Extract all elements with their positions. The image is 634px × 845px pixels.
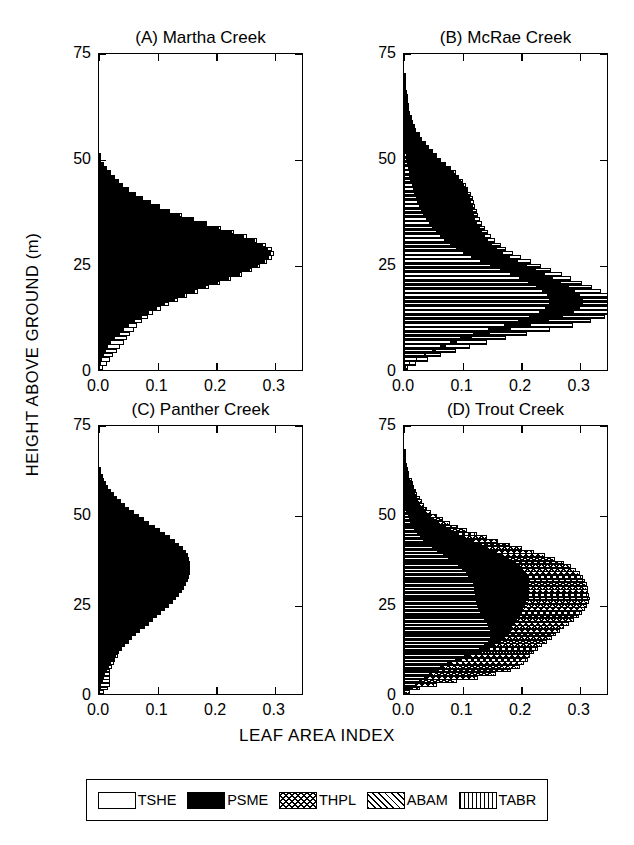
bar-row — [404, 268, 551, 273]
bar-segment-psme — [99, 579, 187, 583]
bar-segment-psme — [448, 557, 510, 561]
bar-row — [404, 285, 592, 290]
bar-segment-abam — [404, 615, 482, 619]
bar-segment-psme — [412, 525, 445, 529]
bar-segment-abam — [404, 593, 475, 597]
x-tick-mark — [216, 54, 217, 61]
bar-segment-psme — [99, 272, 240, 277]
bar-segment-tshe — [461, 179, 463, 184]
bar-row — [404, 582, 587, 586]
bar-segment-tshe — [488, 238, 495, 243]
bar-segment-tshe — [482, 230, 488, 235]
x-axis-title: LEAF AREA INDEX — [0, 726, 634, 746]
bar-segment-tshe — [178, 593, 179, 597]
bar-row — [404, 323, 573, 328]
bar-row — [99, 187, 129, 192]
y-tick-mark — [404, 160, 411, 161]
legend-swatch-abam-icon — [367, 792, 405, 809]
bar-segment-tshe — [583, 302, 608, 307]
bar-row — [99, 517, 144, 521]
bar-row — [99, 336, 127, 341]
bar-row — [404, 344, 470, 349]
bar-row — [404, 175, 459, 180]
bar-segment-psme — [404, 485, 413, 489]
bar-segment-tshe — [150, 200, 151, 205]
bar-segment-tshe — [486, 535, 487, 539]
bar-segment-tshe — [492, 243, 500, 248]
bar-segment-tshe — [410, 361, 416, 366]
bar-segment-abam — [404, 353, 424, 358]
y-tick-label: 50 — [73, 506, 91, 524]
bar-segment-tshe — [118, 651, 119, 655]
bar-segment-psme — [99, 474, 103, 478]
y-tick-mark — [600, 54, 607, 55]
bar-row — [404, 546, 522, 550]
bar-row — [99, 543, 179, 547]
bar-segment-tshe — [511, 327, 551, 332]
bar-row — [404, 661, 524, 665]
bar-segment-psme — [475, 593, 528, 597]
bar-segment-tshe — [172, 600, 173, 604]
bar-row — [404, 633, 556, 637]
bar-segment-tshe — [540, 643, 542, 647]
bar-segment-thpl — [481, 651, 533, 655]
bar-segment-tshe — [103, 679, 110, 683]
bar-segment-tshe — [271, 251, 275, 256]
bar-segment-abam — [404, 676, 424, 680]
bar-segment-abam — [404, 200, 417, 205]
bar-segment-tshe — [485, 234, 491, 239]
bar-row — [404, 217, 480, 222]
bar-segment-psme — [99, 471, 101, 475]
bar-row — [404, 510, 431, 514]
bar-segment-psme — [99, 665, 109, 669]
bar-segment-psme — [99, 281, 218, 286]
legend: TSHEPSMETHPLABAMTABR — [86, 779, 548, 821]
x-tick-mark — [216, 687, 217, 694]
bar-segment-psme — [472, 651, 481, 655]
bar-row — [99, 629, 140, 633]
bar-segment-psme — [464, 654, 472, 658]
bar-row — [99, 226, 221, 231]
bar-segment-abam — [404, 327, 488, 332]
bar-row — [404, 209, 477, 214]
bar-row — [404, 243, 501, 248]
bar-segment-psme — [409, 170, 455, 175]
bar-segment-tshe — [521, 546, 523, 550]
bar-segment-psme — [99, 496, 117, 500]
x-tick-mark — [521, 54, 522, 61]
bar-segment-psme — [99, 175, 114, 180]
bar-segment-tshe — [472, 336, 506, 341]
x-tick-label: 0.2 — [509, 377, 531, 395]
bar-segment-psme — [409, 175, 458, 180]
bar-row — [404, 166, 451, 171]
bar-segment-tshe — [144, 625, 145, 629]
bar-segment-psme — [404, 456, 406, 460]
bar-segment-psme — [99, 243, 263, 248]
bar-segment-tshe — [532, 550, 534, 554]
bar-row — [99, 200, 151, 205]
y-tick-mark — [600, 606, 607, 607]
bar-segment-tshe — [522, 661, 524, 665]
bar-segment-abam — [404, 546, 432, 550]
y-tick-mark — [600, 160, 607, 161]
y-axis-title: HEIGHT ABOVE GROUND (m) — [23, 165, 42, 545]
panel-panther-creek: (C) Panther Creek0.00.10.20.30255075 — [98, 425, 303, 695]
bar-segment-thpl — [411, 687, 418, 691]
bar-segment-psme — [99, 234, 244, 239]
bar-segment-psme — [99, 550, 186, 554]
bar-segment-tshe — [111, 340, 124, 345]
bar-row — [99, 651, 119, 655]
bar-segment-psme — [99, 564, 190, 568]
bar-segment-tshe — [106, 349, 117, 354]
bar-segment-abam — [404, 268, 500, 273]
bar-segment-psme — [99, 298, 175, 303]
bar-row — [404, 481, 413, 485]
bar-segment-psme — [99, 327, 124, 332]
x-tick-mark — [580, 363, 581, 370]
bar-segment-tshe — [426, 507, 427, 511]
panel-title-b: (B) McRae Creek — [403, 28, 608, 48]
bar-row — [404, 306, 608, 311]
bar-segment-thpl — [416, 683, 434, 687]
bar-segment-tshe — [430, 510, 431, 514]
bar-segment-tshe — [508, 669, 510, 673]
